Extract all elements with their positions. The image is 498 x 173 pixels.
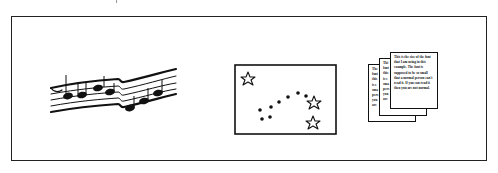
music-staff-icon xyxy=(48,66,180,120)
front-page-text: This is the size of the font that I am u… xyxy=(391,53,437,93)
star-chart-icon xyxy=(234,64,338,136)
document-page-front: This is the size of the font that I am u… xyxy=(390,52,438,109)
stacked-documents-icon: The font this is s sma pers you are Thi … xyxy=(368,52,448,124)
top-tick-mark xyxy=(116,0,117,3)
